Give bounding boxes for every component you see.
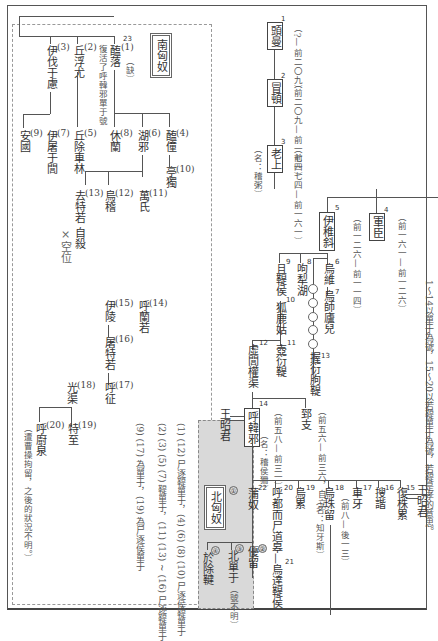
node-s1: 醢落 bbox=[108, 45, 120, 67]
generation-circle bbox=[308, 325, 318, 335]
generation-circle bbox=[308, 298, 318, 308]
legend-line-2: (2) (3) (5) (7) 鞮單于，(11) (13) ~ (16) 尸逐鞮… bbox=[157, 423, 167, 588]
node-modu: 冒頓 bbox=[267, 79, 283, 107]
node-s5: 丘除車林 bbox=[72, 130, 84, 174]
node-s8: 休蘭 bbox=[108, 130, 120, 152]
node-xulvquanqu: 虛閭權渠 bbox=[246, 344, 258, 388]
node-s4: 醢僮 bbox=[164, 130, 176, 152]
dates: （前一二六— 前一一四） bbox=[351, 214, 360, 274]
node-s13: 去特若 bbox=[73, 190, 85, 223]
note-chanyu-titles: 1～14以單于為號，15～20以若鞮單于為號，若鞮是孝的意思。 bbox=[412, 280, 434, 510]
node-youliu: 優留 bbox=[246, 546, 258, 568]
node-s12: 烏稽 bbox=[103, 190, 115, 212]
vacancy-mark: ×空位 bbox=[59, 228, 71, 263]
dates: （前八— 後一三） bbox=[339, 493, 348, 553]
dates: （前五六— 前三六，自立） bbox=[316, 407, 325, 467]
alias: （名：知牙斯） bbox=[314, 497, 323, 557]
node-xulihu: 呴犁湖 bbox=[295, 263, 307, 296]
node-laoshang: 老上 bbox=[267, 145, 283, 173]
node-huyandi: 壺衍鞮 bbox=[274, 344, 286, 377]
node-s17: 呼征 bbox=[103, 382, 115, 404]
generation-circle bbox=[308, 284, 318, 294]
node-hudouershidaogao: 呼都而尸道皋—烏達鞮侯 bbox=[270, 487, 282, 607]
node-s2: 丘浮尤 bbox=[72, 45, 84, 78]
legend-line-3: (9) (17) 為單于，(19) 為尸逐侯單于 bbox=[135, 423, 145, 588]
node-s10: 亭獨 bbox=[164, 166, 176, 188]
northern-xiongnu-title: 北匈奴 bbox=[204, 485, 226, 530]
legend-line-1: (1) (12) 尸逐鞮單于，(4) (6) (8) (10) 尸逐侯鞮單于 bbox=[176, 423, 186, 588]
node-wushiluer: 烏師廬兒 bbox=[322, 290, 334, 334]
node-s20: 呼廚泉 bbox=[34, 423, 46, 456]
node-touman: 頭曼 bbox=[267, 22, 283, 50]
alias: （名：稽侯狦） bbox=[258, 431, 267, 476]
node-s11: 萬氏 bbox=[137, 190, 149, 212]
node-s9: 安國 bbox=[18, 130, 30, 152]
connector bbox=[327, 197, 376, 198]
node-wangzhaojun: 王昭君 bbox=[218, 408, 230, 441]
node-woyanqudi: 握衍朐鞮 bbox=[308, 352, 320, 396]
generation-circle bbox=[308, 339, 318, 349]
node-wuwei: 烏維 bbox=[322, 263, 334, 285]
node-wulei: 烏累 bbox=[293, 487, 305, 509]
dates: （前二〇九— 前一七四） bbox=[292, 80, 301, 140]
node-judihou: 且鞮侯 bbox=[274, 263, 286, 296]
node-s14: 呼蘭若 bbox=[137, 300, 149, 333]
dates: （前一六一— 前一二六） bbox=[396, 213, 405, 273]
dates: （?— 前二〇九） bbox=[292, 24, 301, 84]
node-s7: 伊屠于閭 bbox=[45, 130, 57, 174]
node-s6: 湖邪 bbox=[136, 130, 148, 152]
node-s16: 屠特若 bbox=[103, 337, 115, 370]
dates: （前一七四— 前一六一） bbox=[292, 145, 301, 205]
node-yizhixie: 伊稚斜 bbox=[319, 212, 335, 251]
generation-circle bbox=[308, 312, 318, 322]
node-s19: 特至 bbox=[66, 423, 78, 445]
node-punu: 蒲奴 bbox=[246, 488, 258, 510]
node-yuchujian: 於除鞬 bbox=[201, 552, 213, 585]
marriage-link bbox=[230, 416, 244, 421]
node-souxie: 搜諧 bbox=[373, 487, 385, 509]
node-northern-chanyu: 北單于 bbox=[226, 550, 238, 583]
dates: （前五八— 前三一） bbox=[272, 408, 281, 453]
node-hulugu: 狐鹿姑 bbox=[274, 302, 286, 335]
node-junchen: 軍臣 bbox=[369, 213, 385, 241]
alias: （名：稽粥） bbox=[252, 145, 261, 200]
node-zhizhi: 郅支 bbox=[299, 408, 311, 430]
node-cheya: 車牙 bbox=[350, 487, 362, 509]
node-s18: 光渠 bbox=[65, 382, 77, 404]
note: （號不明） bbox=[228, 585, 237, 630]
node-s3: 伊伐于慮 bbox=[45, 45, 57, 89]
node-s15: 伊陵 bbox=[103, 300, 115, 322]
southern-xiongnu-title: 南匈奴 bbox=[150, 33, 172, 78]
